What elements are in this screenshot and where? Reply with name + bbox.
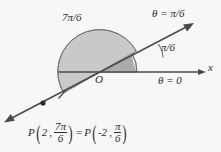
ray-arrowhead-lower-left <box>4 114 15 123</box>
polar-axis-equation-label: θ = 0 <box>158 75 182 86</box>
right-function-name: P <box>84 127 91 138</box>
large-sector-angle-label: 7π/6 <box>62 12 82 23</box>
point-marker-p <box>40 100 45 105</box>
origin-label: O <box>95 74 103 85</box>
right-angle-fraction: π6 <box>114 121 122 144</box>
small-sector-angle-label: π/6 <box>161 42 175 53</box>
x-axis-arrowhead <box>198 69 206 75</box>
left-function-name: P <box>28 127 35 138</box>
left-close-paren: ) <box>68 125 72 141</box>
ray-angle-equation-label: θ = π/6 <box>152 8 184 19</box>
left-comma: , <box>47 127 54 138</box>
equals-sign: = <box>74 127 84 138</box>
right-close-paren: ) <box>123 125 127 141</box>
point-equivalence-equation: P(2,7π6)=P(-2,π6) <box>28 121 128 144</box>
polar-coordinate-figure: 7π/6 θ = π/6 π/6 θ = 0 x O P(2,7π6)=P(-2… <box>0 0 221 152</box>
left-angle-denominator: 6 <box>54 133 67 144</box>
ray-arrowhead-upper-right <box>183 23 194 32</box>
left-open-paren: ( <box>36 125 40 141</box>
x-axis-label: x <box>208 62 213 73</box>
right-comma: , <box>107 127 114 138</box>
left-angle-fraction: 7π6 <box>54 121 67 144</box>
right-angle-denominator: 6 <box>114 133 122 144</box>
right-open-paren: ( <box>92 125 96 141</box>
right-radius-value: -2 <box>98 127 107 138</box>
